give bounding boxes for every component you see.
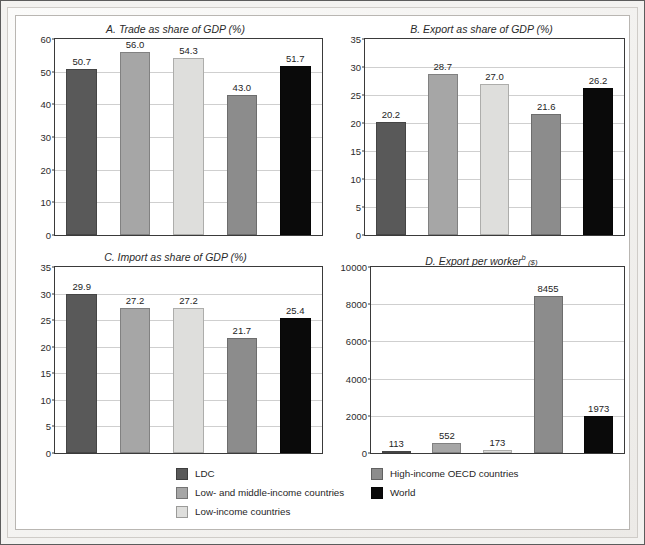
bar-value-label: 56.0 [126, 39, 145, 50]
bar-slot: 113 [382, 267, 411, 453]
y-axis-tick-label: 15 [350, 146, 361, 157]
bar[interactable] [428, 74, 458, 235]
figure-container: A. Trade as share of GDP (%) 01020304050… [0, 0, 645, 545]
bar-slot: 28.7 [428, 39, 458, 235]
panel-b-title: B. Export as share of GDP (%) [334, 22, 629, 37]
bar-group: 20.228.727.021.626.2 [365, 39, 624, 235]
bar-slot: 29.9 [66, 267, 97, 453]
bar-value-label: 27.0 [485, 71, 504, 82]
y-axis-tick-label: 5 [46, 421, 51, 432]
bar-value-label: 29.9 [72, 281, 91, 292]
bar-slot: 51.7 [280, 39, 311, 235]
bar-value-label: 26.2 [589, 75, 608, 86]
legend-column-left: LDCLow- and middle-income countriesLow-i… [176, 465, 344, 522]
y-axis-tick-label: 20 [350, 118, 361, 129]
y-axis-tick-label: 0 [356, 230, 361, 241]
bar[interactable] [531, 114, 561, 235]
legend-item-ldc[interactable]: LDC [176, 465, 344, 482]
legend-item-world[interactable]: World [371, 484, 519, 501]
y-axis-tick-label: 20 [40, 164, 51, 175]
legend-swatch-icon [371, 487, 383, 499]
figure-plate: A. Trade as share of GDP (%) 01020304050… [15, 15, 630, 530]
legend-swatch-icon [371, 468, 383, 480]
bar-slot: 21.7 [227, 267, 258, 453]
bar-slot: 21.6 [531, 39, 561, 235]
legend-swatch-icon [176, 506, 188, 518]
bar[interactable] [583, 88, 613, 235]
bar-slot: 27.2 [120, 267, 151, 453]
bar[interactable] [120, 308, 151, 453]
bar-group: 29.927.227.221.725.4 [55, 267, 322, 453]
chart-panel-c: C. Import as share of GDP (%) 0510152025… [24, 250, 327, 462]
panel-b-plot-area: 0510152025303520.228.727.021.626.2 [364, 38, 625, 236]
bar[interactable] [280, 318, 311, 453]
bar-group: 50.756.054.343.051.7 [55, 39, 322, 235]
bar[interactable] [483, 450, 512, 453]
bar-value-label: 20.2 [382, 109, 401, 120]
bar-value-label: 113 [389, 438, 404, 449]
bar-slot: 54.3 [173, 39, 204, 235]
y-axis-tick-label: 0 [46, 230, 51, 241]
bar-slot: 8455 [534, 267, 563, 453]
panel-a-plot-area: 010203040506050.756.054.343.051.7 [54, 38, 323, 236]
y-axis-tick-label: 40 [40, 99, 51, 110]
y-axis-tick-label: 10 [40, 394, 51, 405]
bar-slot: 50.7 [66, 39, 97, 235]
bar-value-label: 25.4 [286, 305, 305, 316]
bar-value-label: 28.7 [433, 61, 452, 72]
y-axis-tick-label: 6000 [346, 336, 367, 347]
bar-slot: 26.2 [583, 39, 613, 235]
y-axis-tick-label: 8000 [346, 299, 367, 310]
y-axis-tick-label: 25 [350, 90, 361, 101]
bar-slot: 552 [432, 267, 461, 453]
bar-slot: 27.2 [173, 267, 204, 453]
panel-a-title: A. Trade as share of GDP (%) [24, 22, 327, 37]
legend-item-label: High-income OECD countries [390, 468, 519, 479]
y-axis-tick-label: 15 [40, 368, 51, 379]
chart-panel-a: A. Trade as share of GDP (%) 01020304050… [24, 22, 327, 244]
bar-value-label: 21.7 [233, 325, 252, 336]
bar[interactable] [382, 451, 411, 453]
chart-panel-d: D. Export per workerb ($) 02000400060008… [334, 250, 629, 462]
legend-item-low_income[interactable]: Low-income countries [176, 503, 344, 520]
legend-item-high_income_oecd[interactable]: High-income OECD countries [371, 465, 519, 482]
bar[interactable] [120, 52, 151, 235]
bar[interactable] [584, 416, 613, 453]
legend-swatch-icon [176, 468, 188, 480]
legend-item-low_and_middle_income[interactable]: Low- and middle-income countries [176, 484, 344, 501]
bar-value-label: 8455 [538, 283, 559, 294]
panel-grid: A. Trade as share of GDP (%) 01020304050… [16, 16, 629, 529]
legend-swatch-icon [176, 487, 188, 499]
y-axis-tick-label: 4000 [346, 373, 367, 384]
y-axis-tick-label: 2000 [346, 410, 367, 421]
y-axis-tick-label: 30 [40, 132, 51, 143]
bar[interactable] [66, 294, 97, 453]
bar[interactable] [173, 308, 204, 453]
bar[interactable] [376, 122, 406, 235]
bar[interactable] [280, 66, 311, 235]
bar[interactable] [227, 95, 258, 235]
bar[interactable] [432, 443, 461, 453]
y-axis-tick-label: 0 [362, 448, 367, 459]
chart-panel-b: B. Export as share of GDP (%) 0510152025… [334, 22, 629, 244]
y-axis-tick-label: 10000 [341, 262, 367, 273]
y-axis-tick-label: 30 [350, 62, 361, 73]
bar[interactable] [66, 69, 97, 235]
bar-slot: 56.0 [120, 39, 151, 235]
bar-value-label: 50.7 [72, 56, 91, 67]
legend-item-label: Low- and middle-income countries [195, 487, 344, 498]
legend-item-label: Low-income countries [195, 506, 290, 517]
y-axis-tick-label: 25 [40, 315, 51, 326]
bar[interactable] [173, 58, 204, 235]
bar-slot: 27.0 [480, 39, 510, 235]
bar-slot: 25.4 [280, 267, 311, 453]
bar-value-label: 43.0 [233, 82, 252, 93]
bar-value-label: 552 [439, 430, 455, 441]
y-axis-tick-label: 30 [40, 288, 51, 299]
legend-item-label: LDC [195, 468, 215, 479]
bar[interactable] [227, 338, 258, 453]
bar[interactable] [534, 296, 563, 453]
panel-d-plot-area: 020004000600080001000011355217384551973 [370, 266, 625, 454]
panel-d-title: D. Export per workerb ($) [334, 250, 629, 265]
bar[interactable] [480, 84, 510, 235]
